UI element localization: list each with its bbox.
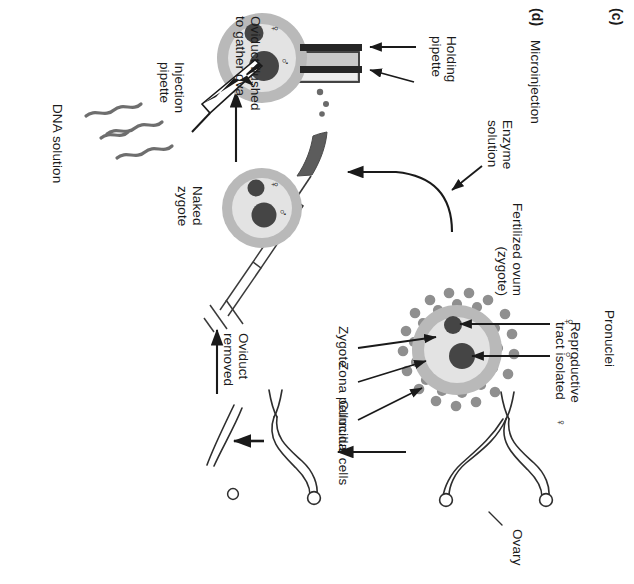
oviduct-segment: [297, 132, 327, 176]
label-oviduct-removed: Oviduct removed: [221, 333, 250, 386]
male-pronucleus: [449, 343, 475, 369]
arrow-zona-callout: [358, 361, 426, 382]
label-holding-pipette: Holding pipette: [429, 36, 458, 82]
arrow-enzyme-label: [452, 166, 482, 190]
panel-d-title: Microinjection: [528, 40, 543, 124]
symbol-male-pronucleus-inject: ♂: [278, 57, 293, 66]
oviduct-removed-drawing: [207, 390, 320, 504]
figure-plate: (c) Reproductive tract isolated ♀ Ovary: [0, 0, 634, 584]
label-fertilized-ovum: Fertilized ovum (zygote): [495, 186, 524, 296]
arrow-cumulus-callout: [358, 388, 422, 420]
symbol-male-pronucleus: ♂: [562, 350, 577, 361]
female-pronucleus: [444, 316, 462, 334]
figure-canvas: (c) Reproductive tract isolated ♀ Ovary: [0, 0, 634, 584]
symbol-male-pronucleus-naked: ♂: [276, 208, 291, 217]
label-pronuclei: Pronuclei: [602, 310, 617, 367]
symbol-female-pronucleus-inject: ♀: [268, 24, 283, 33]
reproductive-tract-drawing: [440, 392, 553, 525]
holding-pipette-bar-b: [300, 66, 362, 73]
panel-d-tag: (d): [530, 8, 545, 26]
naked-zygote-drawing: [222, 168, 302, 248]
label-naked-zygote: Naked zygote: [175, 186, 204, 226]
arrow-enzyme-curve: [348, 172, 452, 232]
label-enzyme-solution: Enzyme solution: [485, 120, 514, 169]
label-cumulus-cells: Cumulus cells: [336, 400, 351, 485]
label-oviduct-flushed: Oviduct flushed to gather ova: [233, 16, 262, 111]
label-dna-solution: DNA solution: [50, 104, 65, 183]
holding-pipette-bar-a: [300, 44, 362, 51]
arrow-holding-pipette-b: [370, 70, 414, 82]
label-injection-pipette: Injection pipette: [157, 62, 186, 113]
symbol-female-pronucleus: ♀: [562, 316, 577, 327]
symbol-female-pronucleus-naked: ♀: [268, 180, 283, 189]
